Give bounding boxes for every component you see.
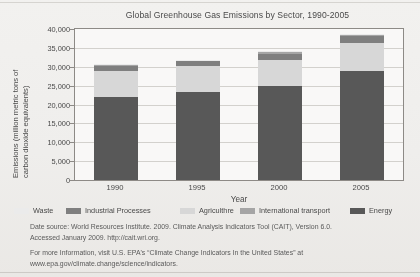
legend-item[interactable]: Waste (14, 206, 53, 215)
y-tick-label: 15,000 (18, 119, 70, 128)
x-tick-label: 2005 (331, 183, 391, 192)
legend-item[interactable]: Industrial Processes (66, 206, 151, 215)
bar-segment[interactable] (340, 43, 384, 70)
bar-segment[interactable] (258, 54, 302, 60)
bar-segment[interactable] (176, 92, 220, 180)
bar-segment[interactable] (258, 51, 302, 52)
legend-label: Industrial Processes (85, 206, 151, 215)
bar-segment[interactable] (176, 61, 220, 66)
bar-segment[interactable] (340, 34, 384, 35)
chart-figure: Global Greenhouse Gas Emissions by Secto… (0, 4, 420, 200)
chart-legend: WasteIndustrial ProcessesAgriculthreInte… (0, 206, 420, 220)
chart-title: Global Greenhouse Gas Emissions by Secto… (60, 10, 415, 20)
bar-segment[interactable] (94, 65, 138, 66)
bars-container (75, 29, 403, 180)
more-info-line-1: For more Information, visit U.S. EPA's “… (30, 248, 410, 259)
legend-label: Energy (369, 206, 392, 215)
bar-segment[interactable] (94, 66, 138, 72)
y-tick-label: 30,000 (18, 62, 70, 71)
source-line-2: Accessed January 2009. http://cait.wri.o… (30, 233, 410, 244)
legend-swatch (180, 208, 195, 214)
bar-segment[interactable] (94, 71, 138, 97)
bar-segment[interactable] (94, 64, 138, 65)
source-line-1: Date source: World Resources Institute. … (30, 222, 410, 233)
bar-segment[interactable] (340, 35, 384, 37)
legend-label: International transport (259, 206, 330, 215)
x-axis-title: Year (74, 195, 404, 204)
y-tick-label: 35,000 (18, 43, 70, 52)
y-tick-label: 25,000 (18, 81, 70, 90)
legend-swatch (350, 208, 365, 214)
more-info-line-2: www.epa.gov/climate.change/sclence/indic… (30, 259, 410, 270)
bar-segment[interactable] (340, 36, 384, 43)
top-divider (0, 2, 420, 3)
y-tick-label: 0 (18, 176, 70, 185)
legend-swatch (240, 208, 255, 214)
legend-item[interactable]: Energy (350, 206, 392, 215)
legend-item[interactable]: International transport (240, 206, 330, 215)
legend-label: Agriculthre (199, 206, 234, 215)
bar-segment[interactable] (340, 71, 384, 180)
x-tick-label: 1995 (167, 183, 227, 192)
y-tick-label: 20,000 (18, 100, 70, 109)
document-page: Global Greenhouse Gas Emissions by Secto… (0, 0, 420, 277)
plot-area (74, 28, 404, 181)
x-tick-label: 1990 (85, 183, 145, 192)
x-axis-tick-labels: 1990199520002005 (74, 183, 404, 195)
x-tick-label: 2000 (249, 183, 309, 192)
y-tick-label: 5,000 (18, 157, 70, 166)
source-notes: Date source: World Resources Institute. … (30, 222, 410, 269)
y-tick-label: 10,000 (18, 138, 70, 147)
legend-item[interactable]: Agriculthre (180, 206, 234, 215)
bar-segment[interactable] (176, 60, 220, 61)
bar-segment[interactable] (176, 60, 220, 61)
y-tick-label: 40,000 (18, 25, 70, 34)
bar-segment[interactable] (94, 97, 138, 180)
bar-segment[interactable] (258, 86, 302, 180)
legend-label: Waste (33, 206, 53, 215)
legend-swatch (66, 208, 81, 214)
bar-segment[interactable] (258, 52, 302, 53)
bar-segment[interactable] (258, 60, 302, 86)
legend-swatch (14, 208, 29, 214)
bar-segment[interactable] (176, 66, 220, 91)
bottom-divider (0, 272, 420, 273)
